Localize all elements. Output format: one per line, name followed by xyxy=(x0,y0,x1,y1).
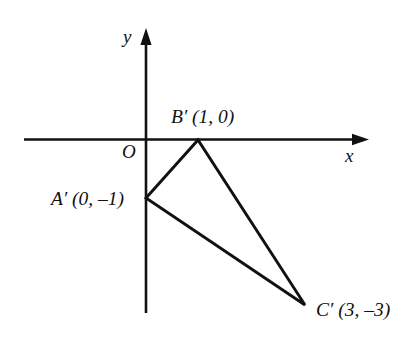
point-label-a-prime: A′ (0, –1) xyxy=(51,189,124,209)
geometry-figure: y x O B′ (1, 0) A′ (0, –1) C′ (3, –3) xyxy=(0,0,418,338)
horizontal-axis-arrowhead xyxy=(352,134,369,145)
triangle-a-b-c xyxy=(146,140,305,305)
origin-label: O xyxy=(122,142,136,161)
point-label-b-prime: B′ (1, 0) xyxy=(171,107,234,127)
y-axis-label: y xyxy=(123,27,131,46)
vertical-axis-arrowhead xyxy=(140,28,151,45)
x-axis-label: x xyxy=(345,146,353,165)
coordinate-plane-canvas xyxy=(0,0,418,338)
point-label-c-prime: C′ (3, –3) xyxy=(316,300,390,320)
